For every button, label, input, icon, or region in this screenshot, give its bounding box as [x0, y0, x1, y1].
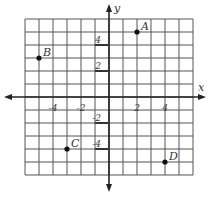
x-tick-label: 4 [161, 103, 168, 113]
x-axis-left-arrow-icon [4, 94, 12, 100]
y-axis-up-arrow-icon [106, 4, 112, 12]
coordinate-plane: yx-4-22442-2-4ABCD [0, 0, 210, 198]
point-c [64, 146, 69, 151]
x-axis-right-arrow-icon [198, 94, 206, 100]
x-tick-label: -4 [49, 103, 58, 113]
x-tick-label: 2 [133, 103, 140, 113]
point-a [134, 29, 139, 34]
y-tick-label: -2 [92, 113, 101, 123]
x-axis-label: x [198, 81, 205, 94]
y-axis-down-arrow-icon [106, 184, 112, 192]
y-tick-label: -4 [92, 139, 101, 149]
y-axis-label: y [113, 2, 121, 15]
y-tick-label: 2 [94, 61, 101, 71]
point-label-c: C [71, 137, 80, 150]
point-label-d: D [168, 150, 178, 163]
y-tick-label: 4 [94, 35, 101, 45]
x-tick-label: -2 [77, 103, 86, 113]
point-label-b: B [42, 46, 51, 59]
point-b [36, 55, 41, 60]
point-d [162, 159, 167, 164]
point-label-a: A [140, 20, 149, 33]
